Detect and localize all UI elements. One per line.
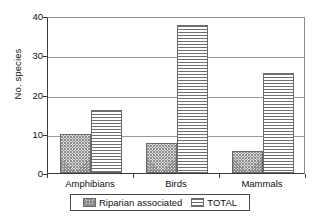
legend-label-total: TOTAL [207,198,237,208]
bar-amphibians-riparian-associated [60,134,91,173]
bar-birds-riparian-associated [146,143,177,173]
bar-chart-figure: No. species 40 30 20 10 0 Amphibians Bir… [0,0,317,220]
plot-area [47,17,305,174]
y-tick-label-30: 30 [19,51,43,60]
legend-label-riparian-associated: Riparian associated [99,198,182,208]
x-category-label-birds: Birds [133,178,219,189]
bar-birds-total [177,25,208,173]
x-category-label-mammals: Mammals [219,178,305,189]
y-tick-label-20: 20 [19,91,43,100]
y-tick-label-0: 0 [19,169,43,178]
chart-legend: Riparian associated TOTAL [70,194,250,211]
legend-entry-riparian-associated: Riparian associated [83,198,182,208]
x-category-label-amphibians: Amphibians [47,178,133,189]
legend-swatch-riparian-associated [83,198,96,207]
bar-amphibians-total [91,110,122,173]
legend-entry-total: TOTAL [191,198,237,208]
legend-swatch-total [191,198,204,207]
y-tick-label-40: 40 [19,12,43,21]
gridline-30 [48,57,304,58]
y-tick-label-10: 10 [19,130,43,139]
bar-mammals-total [263,73,294,173]
bar-mammals-riparian-associated [232,151,263,173]
y-axis-title: No. species [12,24,26,124]
x-tick-mark-3 [305,174,306,178]
